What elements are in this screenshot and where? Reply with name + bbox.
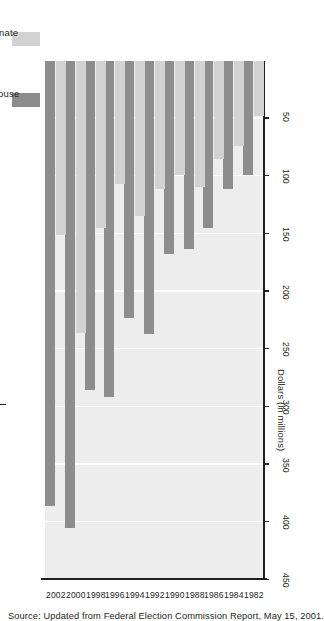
bar-senate bbox=[175, 61, 185, 175]
bar-house bbox=[65, 61, 75, 528]
bar-senate bbox=[115, 61, 125, 184]
bar-senate bbox=[195, 61, 205, 187]
value-axis-title: Dollars (in millions) bbox=[276, 369, 287, 451]
legend-label-senate: Senate bbox=[0, 27, 18, 38]
bar-group bbox=[184, 61, 204, 580]
bar-senate bbox=[96, 61, 106, 228]
axis-tick bbox=[263, 117, 269, 118]
value-tick-label: 450 bbox=[281, 573, 291, 588]
chart-legend: House Senate bbox=[12, 0, 40, 107]
value-tick-label: 200 bbox=[281, 285, 291, 300]
bar-senate bbox=[56, 61, 66, 235]
bar-house bbox=[104, 61, 114, 397]
bar-group bbox=[144, 61, 164, 580]
bar-house bbox=[223, 61, 233, 189]
bar-senate bbox=[234, 61, 244, 146]
category-label-1998: 1998 bbox=[86, 590, 106, 600]
bar-senate bbox=[155, 61, 165, 189]
bar-house bbox=[164, 61, 174, 254]
legend-item-senate: Senate bbox=[12, 0, 40, 46]
bar-group bbox=[45, 61, 65, 580]
value-tick-label: 50 bbox=[281, 112, 291, 122]
category-label-2000: 2000 bbox=[66, 590, 86, 600]
source-note: Source: Updated from Federal Election Co… bbox=[8, 611, 324, 621]
legend-label-house: House bbox=[0, 88, 19, 99]
bar-house bbox=[243, 61, 253, 175]
category-label-1986: 1986 bbox=[204, 590, 224, 600]
category-label-1984: 1984 bbox=[224, 590, 244, 600]
bar-group bbox=[124, 61, 144, 580]
axis-tick bbox=[263, 290, 269, 291]
bar-group bbox=[204, 61, 224, 580]
bar-senate bbox=[254, 61, 264, 116]
value-tick-label: 400 bbox=[281, 515, 291, 530]
category-axis-line bbox=[263, 61, 265, 580]
category-label-1992: 1992 bbox=[145, 590, 165, 600]
bar-group bbox=[85, 61, 105, 580]
axis-tick bbox=[263, 579, 269, 580]
axis-tick bbox=[263, 406, 269, 407]
bar-group bbox=[243, 61, 263, 580]
bar-group bbox=[223, 61, 243, 580]
value-tick-label: 350 bbox=[281, 458, 291, 473]
axis-tick bbox=[263, 521, 269, 522]
axis-tick bbox=[263, 348, 269, 349]
legend-item-house: House bbox=[12, 60, 40, 107]
axis-tick bbox=[263, 463, 269, 464]
bar-group bbox=[164, 61, 184, 580]
value-tick-label: 150 bbox=[281, 227, 291, 242]
bar-house bbox=[124, 61, 134, 318]
category-label-1982: 1982 bbox=[244, 590, 264, 600]
bar-house bbox=[45, 61, 55, 506]
category-label-1994: 1994 bbox=[125, 590, 145, 600]
bar-senate bbox=[135, 61, 145, 216]
axis-tick bbox=[263, 175, 269, 176]
value-tick-label: 250 bbox=[281, 342, 291, 357]
bar-group bbox=[65, 61, 85, 580]
category-label-1988: 1988 bbox=[185, 590, 205, 600]
bar-house bbox=[184, 61, 194, 249]
bar-house bbox=[85, 61, 95, 390]
bar-senate bbox=[76, 61, 86, 333]
axis-tick bbox=[263, 233, 269, 234]
category-label-1996: 1996 bbox=[105, 590, 125, 600]
bar-group bbox=[104, 61, 124, 580]
value-tick-label: 100 bbox=[281, 169, 291, 184]
category-label-1990: 1990 bbox=[165, 590, 185, 600]
bar-senate bbox=[214, 61, 224, 159]
bar-house bbox=[203, 61, 213, 228]
category-label-2002: 2002 bbox=[46, 590, 66, 600]
bar-house bbox=[144, 61, 154, 334]
